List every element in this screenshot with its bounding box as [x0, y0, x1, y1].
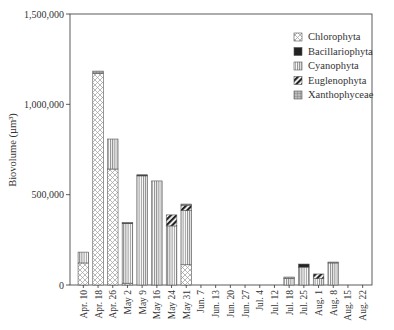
y-tick-label: 1,000,000 [24, 99, 64, 110]
x-tick-label: Jun. 13 [211, 290, 221, 318]
x-tick-label: May 9 [138, 290, 148, 315]
legend-label: Cyanophyta [308, 60, 359, 71]
x-tick-label: Jul. 18 [285, 290, 295, 316]
legend-swatch-icon [294, 77, 302, 85]
bar-stack [284, 277, 295, 285]
stacked-bar-chart: 0500,0001,000,0001,500,000 Apr. 10Apr. 1… [0, 0, 394, 330]
bar-stack [107, 139, 118, 285]
bar-segment-cyanophyta [166, 226, 177, 285]
x-tick-label: Jun. 20 [226, 290, 236, 318]
x-tick-label: Jul. 4 [255, 290, 265, 311]
x-tick-label: Jun. 27 [241, 290, 251, 318]
y-tick-label: 0 [59, 280, 64, 291]
bar-segment-cyanophyta [328, 263, 339, 285]
legend-item: Xanthophyceae [294, 89, 374, 100]
bar-segment-xanthophyceae [181, 204, 192, 205]
x-tick-label: Jun. 7 [196, 290, 206, 313]
bar-segment-xanthophyceae [328, 262, 339, 263]
bar-segment-chlorophyta [93, 73, 104, 285]
bar-segment-bacillariophyta [137, 175, 148, 176]
bar-stack [93, 71, 104, 285]
y-tick-label: 1,500,000 [24, 9, 64, 20]
bar-segment-chlorophyta [78, 263, 89, 285]
bar-stack [313, 274, 324, 285]
x-tick-label: Jul. 25 [299, 290, 309, 316]
x-tick-label: Aug. 1 [314, 290, 324, 316]
bar-segment-cyanophyta [284, 278, 295, 285]
bar-stack [137, 175, 148, 285]
y-axis: 0500,0001,000,0001,500,000 [24, 9, 70, 291]
bar-segment-cyanophyta [137, 176, 148, 285]
x-tick-label: Aug. 8 [329, 290, 339, 316]
legend-item: Cyanophyta [294, 60, 359, 71]
bars-group [78, 71, 338, 285]
bar-stack [299, 264, 310, 285]
bar-segment-cyanophyta [107, 139, 118, 169]
bar-segment-cyanophyta [313, 279, 324, 285]
x-axis: Apr. 10Apr. 18Apr. 26May 2May 9May 16May… [79, 285, 368, 321]
x-tick-label: May 2 [123, 290, 133, 315]
legend: ChlorophytaBacillariophytaCyanophytaEugl… [294, 14, 374, 100]
x-tick-label: Apr. 10 [79, 290, 89, 319]
legend-swatch-icon [294, 62, 302, 70]
x-tick-label: May 31 [182, 290, 192, 320]
legend-swatch-icon [294, 48, 302, 56]
legend-swatch-icon [294, 33, 302, 41]
y-axis-title: Biovolume (µm³) [7, 113, 19, 187]
x-tick-label: Aug. 15 [343, 290, 353, 321]
x-tick-label: Aug. 22 [358, 290, 368, 321]
x-tick-label: May 16 [152, 290, 162, 320]
legend-item: Chlorophyta [294, 31, 361, 42]
legend-label: Chlorophyta [308, 31, 361, 42]
bar-segment-xanthophyceae [93, 71, 104, 73]
bar-stack [78, 252, 89, 285]
bar-segment-chlorophyta [181, 265, 192, 285]
x-tick-label: Apr. 26 [108, 290, 118, 319]
bar-segment-cyanophyta [78, 252, 89, 263]
bar-segment-chlorophyta [107, 169, 118, 285]
bar-segment-bacillariophyta [299, 264, 310, 267]
bar-segment-cyanophyta [152, 181, 163, 285]
x-tick-label: May 24 [167, 290, 177, 320]
bar-stack [166, 215, 177, 285]
legend-label: Bacillariophyta [308, 46, 373, 57]
bar-segment-euglenophyta [181, 205, 192, 210]
bar-segment-xanthophyceae [284, 277, 295, 278]
bar-stack [181, 204, 192, 285]
x-tick-label: Jul. 12 [270, 290, 280, 316]
bar-segment-euglenophyta [313, 274, 324, 279]
bar-segment-euglenophyta [166, 215, 177, 226]
legend-item: Euglenophyta [294, 75, 367, 86]
bar-segment-cyanophyta [122, 224, 133, 284]
bar-stack [122, 223, 133, 285]
legend-item: Bacillariophyta [294, 46, 373, 57]
legend-label: Euglenophyta [308, 75, 367, 86]
bar-segment-cyanophyta [299, 267, 310, 285]
bar-segment-bacillariophyta [122, 223, 133, 224]
x-tick-label: Apr. 18 [94, 290, 104, 319]
bar-stack [152, 181, 163, 285]
bar-stack [328, 262, 339, 285]
legend-swatch-icon [294, 91, 302, 99]
y-tick-label: 500,000 [32, 189, 65, 200]
bar-segment-cyanophyta [181, 211, 192, 265]
legend-label: Xanthophyceae [308, 89, 374, 100]
